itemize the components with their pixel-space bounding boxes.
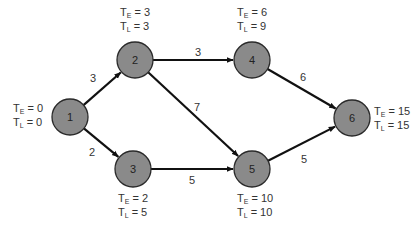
node-2: 2 [117, 42, 153, 78]
edge-weight-1-2: 3 [90, 72, 96, 84]
edge-weight-2-5: 7 [194, 101, 200, 113]
network-diagram: 123456 3237565TE= 0TL= 0TE= 3TL= 3TE= 2T… [0, 0, 419, 230]
edges-layer [84, 60, 336, 169]
te-label-node-1: TE= 0 [13, 102, 43, 115]
node-number: 2 [132, 54, 138, 66]
node-4: 4 [234, 42, 270, 78]
node-1: 1 [52, 99, 88, 135]
tl-label-node-4: TL= 9 [237, 20, 266, 33]
te-label-node-3: TE= 2 [118, 192, 148, 205]
node-3: 3 [115, 151, 151, 187]
edge-weight-5-6: 5 [301, 153, 307, 165]
node-number: 4 [249, 54, 255, 66]
tl-label-node-1: TL= 0 [13, 116, 42, 129]
edge-weight-1-3: 2 [89, 146, 95, 158]
tl-label-node-6: TL= 15 [374, 119, 409, 132]
tl-label-node-5: TL= 10 [237, 206, 272, 219]
edge-weight-4-6: 6 [300, 71, 306, 83]
edge-weight-2-4: 3 [195, 46, 201, 58]
node-number: 6 [349, 112, 355, 124]
node-number: 3 [130, 163, 136, 175]
edge-weight-3-5: 5 [189, 174, 195, 186]
node-5: 5 [234, 151, 270, 187]
node-6: 6 [334, 100, 370, 136]
nodes-layer: 123456 [52, 42, 370, 187]
te-label-node-5: TE= 10 [237, 192, 273, 205]
te-label-node-2: TE= 3 [120, 6, 150, 19]
tl-label-node-2: TL= 3 [120, 20, 149, 33]
te-label-node-4: TE= 6 [237, 6, 267, 19]
node-number: 5 [249, 163, 255, 175]
te-label-node-6: TE= 15 [374, 105, 410, 118]
edge-2-5 [148, 72, 238, 156]
tl-label-node-3: TL= 5 [118, 206, 147, 219]
node-number: 1 [67, 111, 73, 123]
diagram-svg: 123456 3237565TE= 0TL= 0TE= 3TL= 3TE= 2T… [0, 0, 419, 230]
